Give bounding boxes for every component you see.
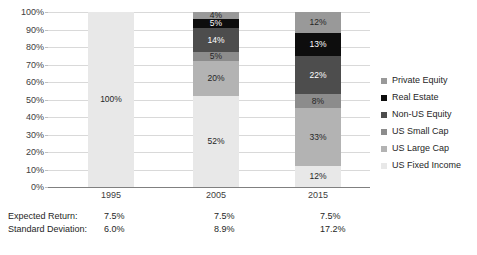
legend-item-label: US Small Cap <box>392 127 449 136</box>
y-axis-tick-label: 80% <box>26 43 44 52</box>
legend-swatch-icon <box>381 95 387 101</box>
y-axis-tick-mark <box>45 117 48 118</box>
bar-segment-value-label: 5% <box>210 19 222 28</box>
legend-swatch-icon <box>381 163 387 169</box>
bar-segment-value-label: 33% <box>309 133 326 142</box>
legend-item[interactable]: US Large Cap <box>381 140 477 157</box>
stats-cell: 7.5% <box>100 210 210 223</box>
legend-item[interactable]: US Fixed Income <box>381 157 477 174</box>
stats-cell: 17.2% <box>316 223 346 236</box>
stats-cell: 8.9% <box>210 223 316 236</box>
x-axis-tick-label: 2005 <box>193 190 239 200</box>
x-axis-tick-label: 2015 <box>295 190 341 200</box>
stats-row-label: Standard Deviation: <box>8 223 100 236</box>
y-axis-tick-mark <box>45 100 48 101</box>
bar-segment[interactable]: 8% <box>295 94 341 108</box>
bar-segment[interactable]: 12% <box>295 12 341 33</box>
bar-segment[interactable]: 13% <box>295 33 341 56</box>
bar-segment[interactable]: 5% <box>193 52 239 61</box>
stats-table: Expected Return:7.5%7.5%7.5%Standard Dev… <box>8 210 346 236</box>
y-axis-tick-label: 0% <box>31 183 44 192</box>
x-axis-line: 0% <box>48 187 370 188</box>
plot-area: 0%10%20%30%40%50%60%70%80%90%100% 100%52… <box>48 12 370 187</box>
bar-segment-value-label: 20% <box>207 74 224 83</box>
x-axis-tick-label: 1995 <box>88 190 134 200</box>
chart-legend: Private EquityReal EstateNon-US EquityUS… <box>381 72 477 174</box>
y-axis-tick-mark <box>45 65 48 66</box>
legend-item[interactable]: US Small Cap <box>381 123 477 140</box>
stats-row: Standard Deviation:6.0%8.9%17.2% <box>8 223 346 236</box>
stacked-bar[interactable]: 12%33%8%22%13%12% <box>295 12 341 187</box>
y-axis-tick-label: 70% <box>26 60 44 69</box>
stacked-bar[interactable]: 52%20%5%14%5%4% <box>193 12 239 187</box>
y-axis-tick-label: 60% <box>26 78 44 87</box>
legend-item-label: Non-US Equity <box>392 110 452 119</box>
bar-segment[interactable]: 52% <box>193 96 239 187</box>
bar-segment-value-label: 13% <box>309 40 326 49</box>
y-axis-tick-mark <box>45 187 48 188</box>
stats-row: Expected Return:7.5%7.5%7.5% <box>8 210 346 223</box>
bar-segment[interactable]: 20% <box>193 61 239 96</box>
y-axis-tick-label: 30% <box>26 130 44 139</box>
legend-swatch-icon <box>381 129 387 135</box>
bar-segment-value-label: 22% <box>309 71 326 80</box>
legend-item-label: US Fixed Income <box>392 161 461 170</box>
legend-swatch-icon <box>381 146 387 152</box>
y-axis-tick-mark <box>45 12 48 13</box>
stats-cell: 7.5% <box>210 210 316 223</box>
stacked-bar[interactable]: 100% <box>88 12 134 187</box>
legend-item[interactable]: Real Estate <box>381 89 477 106</box>
legend-item[interactable]: Non-US Equity <box>381 106 477 123</box>
y-axis-tick-mark <box>45 135 48 136</box>
y-axis-tick-mark <box>45 82 48 83</box>
bar-segment-value-label: 14% <box>207 36 224 45</box>
y-axis-tick-label: 90% <box>26 25 44 34</box>
bar-segment-value-label: 5% <box>210 52 222 61</box>
bar-segment[interactable]: 4% <box>193 12 239 19</box>
bar-segment[interactable]: 100% <box>88 12 134 187</box>
y-axis-tick-label: 100% <box>21 8 44 17</box>
legend-item-label: US Large Cap <box>392 144 449 153</box>
bar-segment-value-label: 12% <box>309 18 326 27</box>
y-axis-tick-label: 40% <box>26 113 44 122</box>
y-axis-tick-label: 20% <box>26 148 44 157</box>
y-axis-tick-mark <box>45 152 48 153</box>
legend-item-label: Private Equity <box>392 76 448 85</box>
legend-swatch-icon <box>381 78 387 84</box>
bar-segment[interactable]: 12% <box>295 166 341 187</box>
y-axis-tick-label: 10% <box>26 165 44 174</box>
legend-item-label: Real Estate <box>392 93 439 102</box>
bar-segment-value-label: 8% <box>312 97 324 106</box>
stats-row-label: Expected Return: <box>8 210 100 223</box>
y-axis-tick-mark <box>45 47 48 48</box>
y-axis-tick-mark <box>45 170 48 171</box>
y-axis-tick-mark <box>45 30 48 31</box>
bar-segment[interactable]: 14% <box>193 28 239 53</box>
bar-segment-value-label: 4% <box>210 12 222 19</box>
bar-segment[interactable]: 22% <box>295 56 341 95</box>
bar-segment-value-label: 52% <box>207 137 224 146</box>
bar-segment[interactable]: 5% <box>193 19 239 28</box>
stats-cell: 7.5% <box>316 210 346 223</box>
bar-segment-value-label: 12% <box>309 172 326 181</box>
stats-table-element: Expected Return:7.5%7.5%7.5%Standard Dev… <box>8 210 346 236</box>
bar-segment[interactable]: 33% <box>295 108 341 166</box>
bar-segment-value-label: 100% <box>100 95 122 104</box>
chart-page: 0%10%20%30%40%50%60%70%80%90%100% 100%52… <box>0 0 477 255</box>
stats-cell: 6.0% <box>100 223 210 236</box>
y-axis-tick-label: 50% <box>26 95 44 104</box>
legend-swatch-icon <box>381 112 387 118</box>
legend-item[interactable]: Private Equity <box>381 72 477 89</box>
